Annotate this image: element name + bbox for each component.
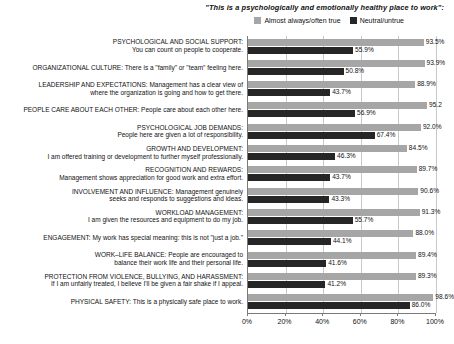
bar-value-negative: 55.7% <box>353 216 374 223</box>
bar-negative <box>248 110 355 117</box>
bar-value-negative: 43.7% <box>330 173 351 180</box>
bar-value-positive: 98.6% <box>433 293 454 300</box>
category-label-line: People here are given a lot of responsib… <box>0 131 243 139</box>
category-label-line: RECOGNITION AND REWARDS: <box>0 166 243 174</box>
category-label: ORGANIZATIONAL CULTURE: There is a "fami… <box>0 64 243 72</box>
legend-label: Neutral/untrue <box>360 17 404 24</box>
category-label-line: LEADERSHIP AND EXPECTATIONS: Management … <box>0 81 243 89</box>
bar-positive <box>248 230 413 237</box>
bar-group: 89.3%41.2% <box>248 273 435 294</box>
bar-group: 92.0%67.4% <box>248 124 435 145</box>
bar-negative <box>248 217 353 224</box>
bar-value-positive: 92.0% <box>421 123 442 130</box>
bar-negative <box>248 47 353 54</box>
bar-value-negative: 43.7% <box>330 88 351 95</box>
x-axis-tick-mark <box>285 313 286 316</box>
category-label: ENGAGEMENT: My work has special meaning:… <box>0 234 243 242</box>
bar-value-positive: 88.9% <box>415 80 436 87</box>
category-label-line: Management shows appreciation for good w… <box>0 174 243 182</box>
bar-negative <box>248 196 329 203</box>
category-label-line: INVOLVEMENT AND INFLUENCE: Management ge… <box>0 188 243 196</box>
bar-value-negative: 50.8% <box>344 67 365 74</box>
bar-group: 93.9%50.8% <box>248 60 435 81</box>
chart-header: "This is a psychologically and emotional… <box>0 0 454 36</box>
bar-group: 93.5%55.9% <box>248 39 435 60</box>
x-axis-tick-mark <box>322 313 323 316</box>
category-label: RECOGNITION AND REWARDS:Management shows… <box>0 166 243 181</box>
category-label-line: PEOPLE CARE ABOUT EACH OTHER: People car… <box>0 106 243 114</box>
legend-swatch-positive <box>254 17 261 24</box>
bar-value-negative: 67.4% <box>375 131 396 138</box>
bar-value-positive: 89.7% <box>417 165 438 172</box>
bar-value-positive: 95.2 <box>427 101 442 108</box>
plot-area: 93.5%55.9%93.9%50.8%88.9%43.7%95.256.9%9… <box>247 36 435 313</box>
x-axis-tick-label: 60% <box>353 318 367 325</box>
category-label-line: ENGAGEMENT: My work has special meaning:… <box>0 234 243 242</box>
category-label: PSYCHOLOGICAL AND SOCIAL SUPPORT:You can… <box>0 38 243 53</box>
bar-group: 84.5%46.3% <box>248 145 435 166</box>
bar-value-positive: 93.5% <box>424 38 445 45</box>
bar-group: 95.256.9% <box>248 102 435 123</box>
bar-negative <box>248 132 375 139</box>
bar-value-positive: 90.6% <box>418 187 439 194</box>
category-label-line: seeks and responds to suggestions and id… <box>0 195 243 203</box>
x-axis-tick-label: 80% <box>390 318 404 325</box>
chart-legend: Almost always/often trueNeutral/untrue <box>254 17 404 24</box>
chart-title: "This is a psychologically and emotional… <box>205 3 444 12</box>
category-label: LEADERSHIP AND EXPECTATIONS: Management … <box>0 81 243 96</box>
bar-value-negative: 41.2% <box>325 280 346 287</box>
category-label-line: PSYCHOLOGICAL AND SOCIAL SUPPORT: <box>0 38 243 46</box>
category-label-line: where the organization is going and how … <box>0 89 243 97</box>
bar-value-negative: 43.3% <box>329 195 350 202</box>
bar-negative <box>248 153 335 160</box>
category-label: PHYSICAL SAFETY: This is a physically sa… <box>0 298 243 306</box>
category-label: PSYCHOLOGICAL JOB DEMANDS:People here ar… <box>0 124 243 139</box>
category-label-line: PSYCHOLOGICAL JOB DEMANDS: <box>0 124 243 132</box>
bar-positive <box>248 209 420 216</box>
category-label-line: You can count on people to cooperate. <box>0 46 243 54</box>
x-axis-tick-mark <box>435 313 436 316</box>
bar-negative <box>248 89 330 96</box>
bar-positive <box>248 145 407 152</box>
bar-group: 88.9%43.7% <box>248 81 435 102</box>
category-label-line: I am offered training or development to … <box>0 153 243 161</box>
bar-value-negative: 55.9% <box>353 46 374 53</box>
category-label-line: ORGANIZATIONAL CULTURE: There is a "fami… <box>0 64 243 72</box>
x-axis-tick-mark <box>360 313 361 316</box>
category-label-line: balance their work life and their person… <box>0 259 243 267</box>
legend-entry: Neutral/untrue <box>350 17 404 24</box>
category-label-line: If I am unfairly treated, I believe I'll… <box>0 280 243 288</box>
bar-value-positive: 88.0% <box>413 229 434 236</box>
category-label-line: PROTECTION FROM VIOLENCE, BULLYING, AND … <box>0 273 243 281</box>
bar-group: 91.3%55.7% <box>248 209 435 230</box>
bar-negative <box>248 260 326 267</box>
x-axis-tick-label: 40% <box>315 318 329 325</box>
x-axis-tick-mark <box>247 313 248 316</box>
bar-negative <box>248 281 325 288</box>
bar-negative <box>248 238 331 245</box>
category-axis-labels: PSYCHOLOGICAL AND SOCIAL SUPPORT:You can… <box>0 36 245 313</box>
category-label-line: WORKLOAD MANAGEMENT: <box>0 209 243 217</box>
bar-value-negative: 41.6% <box>326 259 347 266</box>
category-label: WORK–LIFE BALANCE: People are encouraged… <box>0 251 243 266</box>
bar-group: 89.4%41.6% <box>248 252 435 273</box>
x-axis-tick-label: 20% <box>278 318 292 325</box>
bar-value-negative: 44.1% <box>331 237 352 244</box>
category-label-line: GROWTH AND DEVELOPMENT: <box>0 145 243 153</box>
bar-negative <box>248 302 410 309</box>
bar-positive <box>248 294 433 301</box>
bar-group: 90.6%43.3% <box>248 188 435 209</box>
bar-value-negative: 86.0% <box>410 301 431 308</box>
x-axis-tick-label: 100% <box>426 318 444 325</box>
category-label: PEOPLE CARE ABOUT EACH OTHER: People car… <box>0 106 243 114</box>
bar-value-positive: 89.4% <box>416 251 437 258</box>
bar-value-positive: 93.9% <box>425 59 446 66</box>
bar-positive <box>248 39 424 46</box>
bar-positive <box>248 124 421 131</box>
bar-negative <box>248 68 344 75</box>
bar-positive <box>248 81 415 88</box>
bar-positive <box>248 252 416 259</box>
category-label-line: WORK–LIFE BALANCE: People are encouraged… <box>0 251 243 259</box>
bar-positive <box>248 102 427 109</box>
bar-group: 88.0%44.1% <box>248 230 435 251</box>
